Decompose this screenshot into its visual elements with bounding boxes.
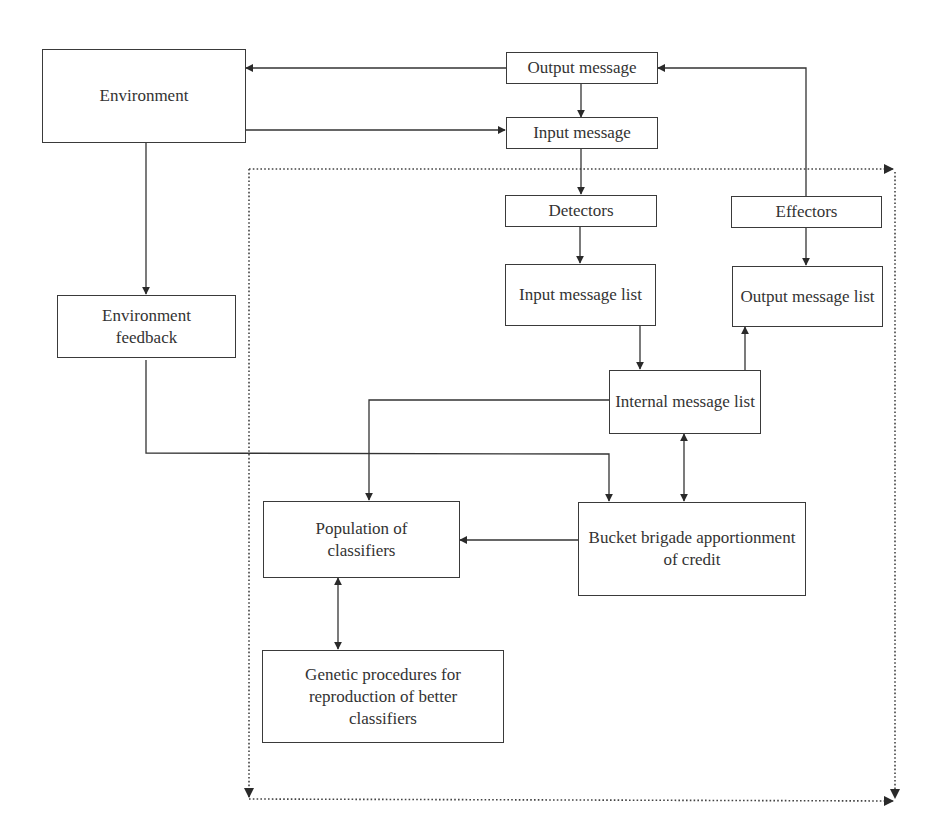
environment-feedback-box: Environment feedback: [57, 295, 236, 358]
edge-effectors-to-output: [658, 68, 806, 196]
internal-message-list-box: Internal message list: [609, 370, 761, 434]
population-of-classifiers-label: Population of classifiers: [307, 518, 417, 562]
effectors-box: Effectors: [731, 196, 882, 228]
population-of-classifiers-box: Population of classifiers: [263, 501, 460, 578]
environment-feedback-label: Environment feedback: [92, 305, 202, 349]
environment-label: Environment: [100, 85, 189, 107]
edge-internal-to-population: [369, 400, 609, 500]
input-message-list-box: Input message list: [505, 264, 656, 326]
internal-message-list-label: Internal message list: [615, 391, 755, 413]
effectors-label: Effectors: [776, 201, 838, 223]
bucket-brigade-box: Bucket brigade apportionment of credit: [578, 502, 806, 596]
genetic-procedures-box: Genetic procedures for reproduction of b…: [262, 650, 504, 743]
edge-feedback-to-bucket: [146, 360, 609, 501]
output-message-list-box: Output message list: [732, 266, 883, 327]
output-message-box: Output message: [506, 52, 658, 84]
genetic-procedures-label: Genetic procedures for reproduction of b…: [283, 664, 483, 730]
input-message-label: Input message: [533, 122, 631, 144]
output-message-list-label: Output message list: [740, 286, 874, 308]
input-message-list-label: Input message list: [519, 284, 642, 306]
output-message-label: Output message: [527, 57, 636, 79]
detectors-label: Detectors: [548, 200, 613, 222]
input-message-box: Input message: [506, 117, 658, 149]
detectors-box: Detectors: [505, 195, 657, 227]
bucket-brigade-label: Bucket brigade apportionment of credit: [585, 527, 800, 571]
environment-box: Environment: [42, 49, 246, 143]
